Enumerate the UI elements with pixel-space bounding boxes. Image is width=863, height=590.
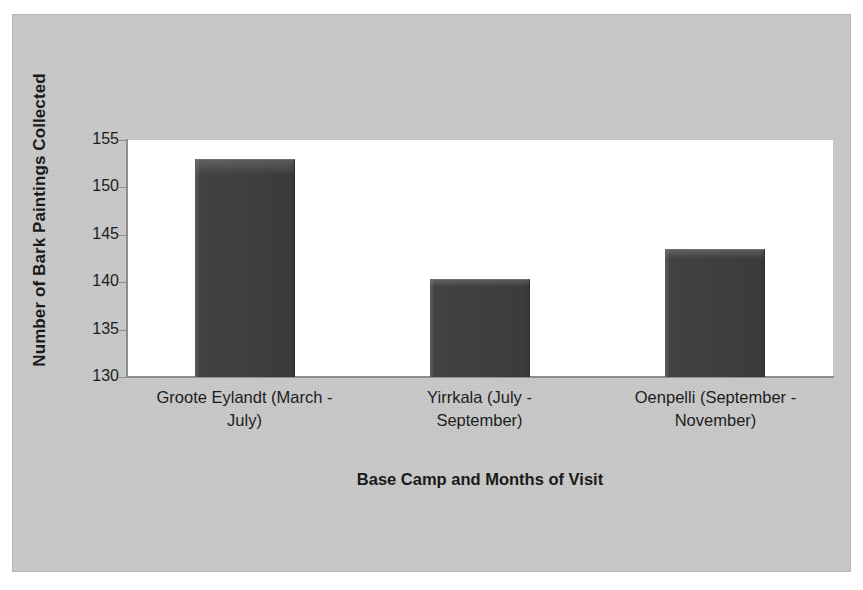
y-tick-mark [119, 377, 127, 378]
x-axis-category-line: Yirrkala (July - [362, 386, 597, 409]
y-tick-label: 150 [67, 178, 119, 194]
x-axis-category-line: September) [362, 409, 597, 432]
bar [430, 279, 530, 377]
y-axis-ticks: 155150145140135130 [0, 0, 119, 590]
y-tick-label: 135 [67, 321, 119, 337]
x-axis-category-line: Groote Eylandt (March - [127, 386, 362, 409]
y-tick-mark [119, 235, 127, 236]
x-axis-category-line: November) [598, 409, 833, 432]
x-axis-category-label: Groote Eylandt (March -July) [127, 386, 362, 433]
y-tick-mark [119, 282, 127, 283]
bar [195, 159, 295, 377]
y-tick-mark [119, 140, 127, 141]
y-tick-label: 130 [67, 368, 119, 384]
x-axis-title: Base Camp and Months of Visit [127, 470, 833, 489]
x-axis-category-line: July) [127, 409, 362, 432]
y-axis-line [126, 139, 128, 378]
x-axis-category-line: Oenpelli (September - [598, 386, 833, 409]
figure-page: Number of Bark Paintings Collected 15515… [0, 0, 863, 590]
y-tick-label: 140 [67, 273, 119, 289]
x-axis-category-label: Oenpelli (September -November) [598, 386, 833, 433]
y-tick-mark [119, 330, 127, 331]
bar [665, 249, 765, 377]
y-tick-mark [119, 187, 127, 188]
y-tick-label: 145 [67, 226, 119, 242]
x-axis-category-label: Yirrkala (July -September) [362, 386, 597, 433]
y-tick-label: 155 [67, 131, 119, 147]
